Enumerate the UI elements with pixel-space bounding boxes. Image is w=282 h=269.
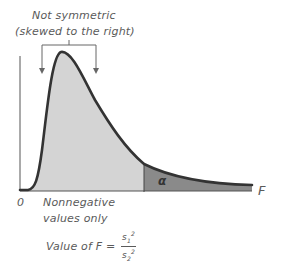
nonnegative-note-line2: values only <box>43 212 108 225</box>
tail-alpha-label: α <box>158 174 166 188</box>
denominator: s22 <box>121 247 136 264</box>
formula-prefix: Value of F = <box>46 240 115 253</box>
nonnegative-note-line1: Nonnegative <box>43 196 115 209</box>
origin-label: 0 <box>17 196 24 209</box>
numerator: s12 <box>121 229 136 247</box>
formula: Value of F = s12 s22 <box>46 229 136 264</box>
x-axis-label: F <box>258 183 266 198</box>
arrow-left-icon <box>39 68 45 74</box>
annotation-line2: (skewed to the right) <box>15 25 135 38</box>
variance-ratio: s12 s22 <box>121 229 136 264</box>
f-distribution-diagram <box>0 0 282 269</box>
annotation-line1: Not symmetric <box>32 9 116 22</box>
arrow-right-icon <box>93 68 99 74</box>
